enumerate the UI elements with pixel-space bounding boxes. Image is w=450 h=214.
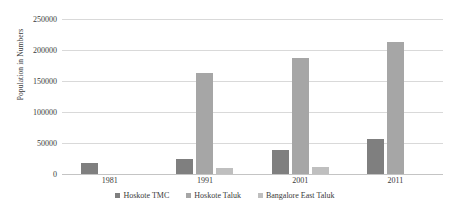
bar[interactable] [292,58,309,174]
bar[interactable] [216,168,233,174]
x-axis-tick-label: 1991 [157,176,252,185]
y-axis-tick-label: 50000 [37,139,57,148]
x-axis-tick-label: 1981 [62,176,157,185]
bar[interactable] [387,42,404,174]
plot-area: 050000100000150000200000250000 [62,19,443,174]
legend-swatch-icon [115,193,120,198]
legend-label: Hoskote TMC [123,191,169,200]
legend-swatch-icon [258,193,263,198]
bar[interactable] [81,163,98,174]
y-axis-tick-label: 250000 [33,15,57,24]
chart-legend: Hoskote TMCHoskote TalukBangalore East T… [0,191,450,200]
y-axis-tick-label: 0 [53,170,57,179]
bar-group [348,19,443,174]
x-axis-tick-label: 2001 [253,176,348,185]
x-axis-tick-label: 2011 [348,176,443,185]
legend-item[interactable]: Bangalore East Taluk [258,191,335,200]
y-axis-tick-label: 150000 [33,77,57,86]
bar[interactable] [312,167,329,174]
bar-groups [62,19,443,174]
x-axis-labels: 1981199120012011 [62,176,443,185]
bar[interactable] [176,159,193,175]
legend-label: Hoskote Taluk [194,191,241,200]
y-axis-tick-label: 200000 [33,46,57,55]
legend-swatch-icon [186,193,191,198]
bar[interactable] [367,139,384,174]
y-axis-title: Population in Numbers [16,0,25,130]
bar-group [157,19,252,174]
bar[interactable] [196,73,213,174]
y-axis-tick-label: 100000 [33,108,57,117]
gridline: 0 [62,174,443,175]
legend-item[interactable]: Hoskote Taluk [186,191,241,200]
bar[interactable] [272,150,289,174]
bar-group-bars [253,19,348,174]
legend-label: Bangalore East Taluk [266,191,335,200]
bar-group-bars [157,19,252,174]
bar-group-bars [62,19,157,174]
bar-group [62,19,157,174]
bar-chart: Population in Numbers 050000100000150000… [0,0,450,214]
bar-group [253,19,348,174]
legend-item[interactable]: Hoskote TMC [115,191,169,200]
bar-group-bars [348,19,443,174]
